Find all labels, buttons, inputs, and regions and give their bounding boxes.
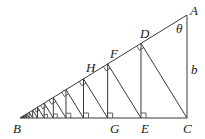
perpendicular-to-ab — [108, 64, 141, 118]
label-e: E — [140, 121, 149, 136]
right-angle-mark — [108, 113, 113, 118]
label-c: C — [183, 121, 192, 136]
label-theta: θ — [176, 21, 183, 36]
perpendicular-to-ab — [141, 43, 187, 118]
right-angle-mark — [83, 113, 88, 118]
right-angle-mark — [66, 113, 71, 118]
label-d: D — [139, 26, 150, 41]
label-b: b — [191, 62, 198, 77]
label-f: F — [109, 46, 119, 61]
right-angle-mark — [141, 113, 146, 118]
label-g: G — [110, 121, 120, 136]
perpendicular-to-ab — [83, 79, 107, 118]
right-angle-mark — [44, 115, 47, 118]
right-angle-mark — [53, 114, 57, 118]
triangle-diagram: A θ b D F H B G E C — [0, 0, 205, 139]
perpendicular-to-ab — [53, 97, 66, 118]
label-h: H — [85, 60, 96, 75]
perpendicular-to-ab — [44, 103, 53, 118]
perpendicular-to-ab — [29, 112, 32, 118]
label-b-vertex: B — [13, 121, 21, 136]
label-a: A — [189, 3, 198, 18]
